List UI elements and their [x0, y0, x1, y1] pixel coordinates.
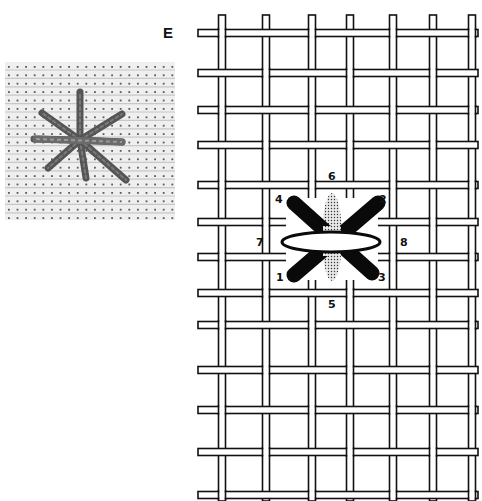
- stitch-point-label-4: 4: [275, 193, 283, 206]
- canvas-grid-diagram: 12345678: [0, 0, 482, 501]
- stitch-point-label-7: 7: [256, 236, 264, 249]
- stitch-point-label-1: 1: [276, 271, 284, 284]
- stitch-point-label-5: 5: [328, 298, 336, 311]
- horizontal-thread: [198, 492, 478, 499]
- horizontal-thread: [198, 107, 478, 114]
- horizontal-thread: [198, 182, 478, 189]
- horizontal-tie-stitch: [282, 232, 380, 252]
- horizontal-thread: [198, 407, 478, 414]
- stitch-point-label-2: 2: [379, 193, 387, 206]
- stitch-point-label-3: 3: [378, 271, 386, 284]
- horizontal-thread: [198, 30, 478, 37]
- stitch-point-label-8: 8: [400, 236, 408, 249]
- horizontal-thread: [198, 322, 478, 329]
- stitch-point-label-6: 6: [328, 170, 336, 183]
